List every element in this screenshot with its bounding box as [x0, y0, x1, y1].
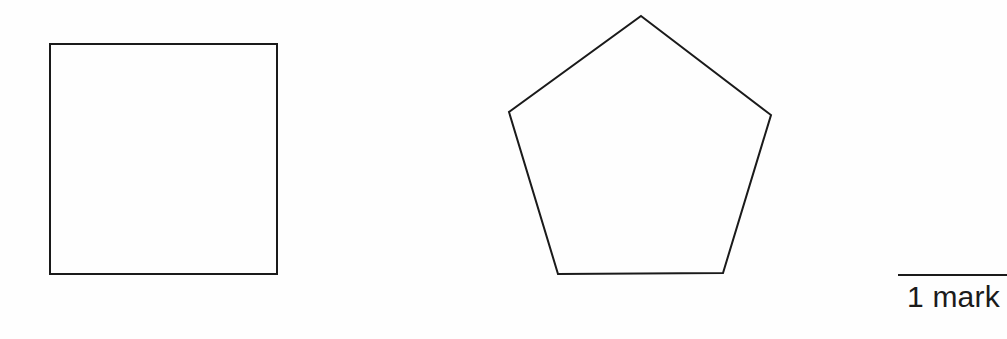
marks-rule-divider [898, 274, 1007, 276]
worksheet-page: 1 mark [0, 0, 1007, 339]
shapes-figure [0, 0, 880, 339]
marks-label: 1 mark [907, 281, 1000, 313]
shapes-canvas [0, 0, 880, 339]
marks-allocation-box: 1 mark [896, 268, 1007, 328]
pentagon-shape [509, 16, 771, 274]
square-shape [50, 44, 277, 274]
